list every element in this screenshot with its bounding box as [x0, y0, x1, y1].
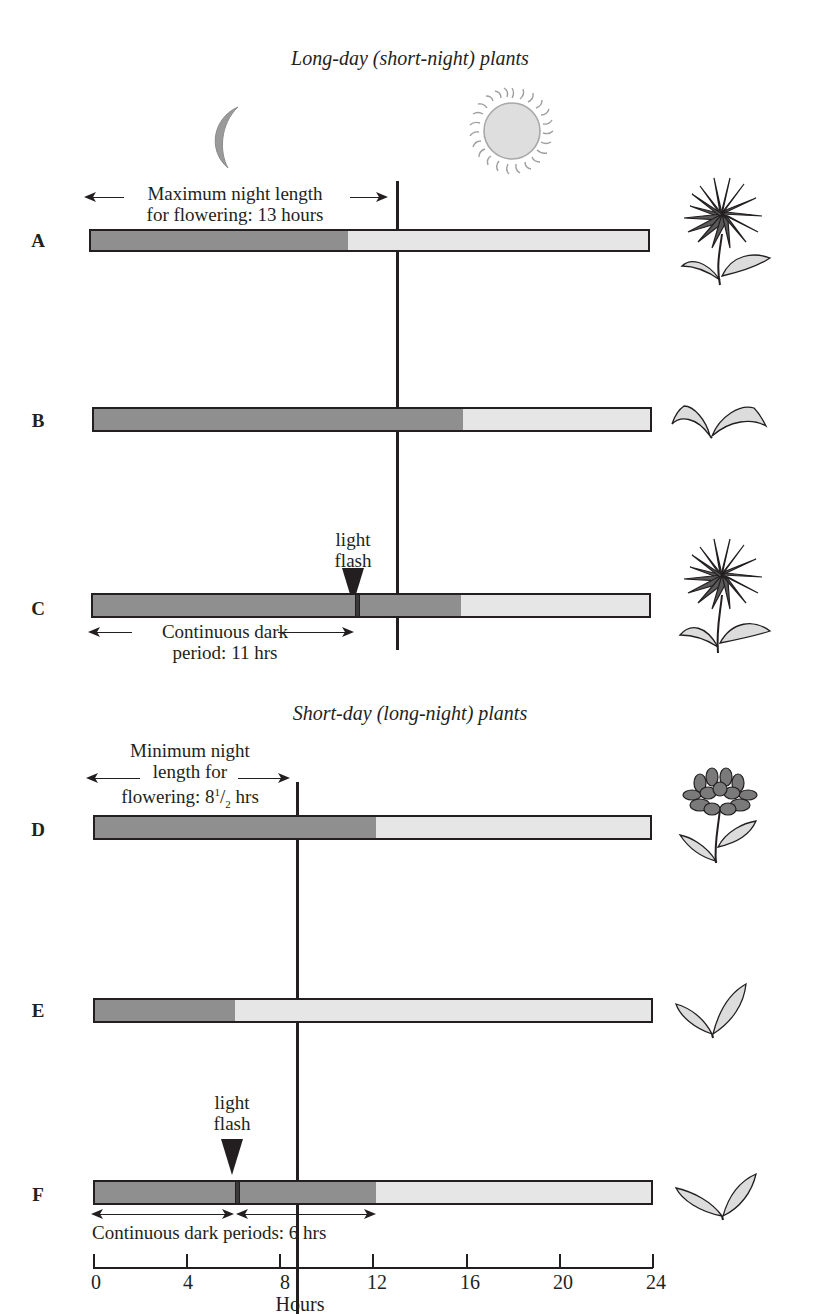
x-tick	[93, 1254, 95, 1268]
arrow-right-head-icon	[342, 627, 354, 637]
light-flash-label-f: light flash	[204, 1092, 260, 1134]
moon-icon	[205, 104, 245, 170]
arrow-right-head-icon	[278, 773, 290, 783]
photoperiod-bar-c	[91, 593, 651, 618]
critical-note-line1: Minimum night	[100, 740, 280, 761]
light-flash-marker-icon	[221, 1139, 243, 1175]
critical-note-line3-unit: hrs	[231, 786, 259, 807]
vegetative-leaves-icon	[670, 398, 780, 440]
flash-label-line1: light	[325, 529, 381, 550]
dark-note-line2: period: 11 hrs	[125, 642, 325, 663]
light-flash-c	[355, 595, 360, 616]
arrow-right-head-icon	[376, 192, 388, 202]
dark-period-e	[95, 1000, 235, 1021]
bottom-panel-title: Short-day (long-night) plants	[230, 702, 590, 725]
arrow-left-head-icon	[236, 1209, 248, 1219]
arrow-left-head-icon	[88, 627, 100, 637]
dark-period-d	[95, 817, 376, 838]
x-axis-label: Hours	[276, 1293, 325, 1314]
flash-label-line2: flash	[204, 1113, 260, 1134]
flash-label-line1: light	[204, 1092, 260, 1113]
x-tick	[186, 1254, 188, 1268]
x-tick-label: 24	[646, 1271, 666, 1294]
dark-period-b	[94, 409, 463, 430]
flowering-plant-icon	[670, 765, 780, 875]
row-label-e: E	[28, 1000, 48, 1022]
arrow-right-head-icon	[364, 1209, 376, 1219]
dark-arrow-2-line	[238, 1214, 372, 1215]
critical-note-line3: flowering: 81/2 hrs	[100, 782, 280, 815]
flowering-plant-icon	[670, 535, 790, 655]
frac-num: 1	[215, 786, 221, 798]
x-tick-label: 4	[183, 1271, 193, 1294]
row-label-f: F	[28, 1184, 48, 1206]
light-flash-f	[235, 1182, 240, 1203]
sun-icon	[462, 84, 562, 184]
dark-arrow-1-line	[95, 1214, 230, 1215]
critical-note-line2: for flowering: 13 hours	[120, 204, 350, 225]
x-tick-label: 8	[280, 1271, 290, 1294]
dark-period-a	[91, 231, 348, 250]
dark-period-note-f: Continuous dark periods: 6 hrs	[92, 1222, 326, 1243]
photoperiod-bar-b	[92, 407, 652, 432]
vegetative-leaves-icon	[670, 1168, 780, 1220]
arrow-right-head-icon	[222, 1209, 234, 1219]
arrow-right-line	[238, 778, 282, 779]
photoperiod-bar-e	[93, 998, 653, 1023]
critical-note-line1: Maximum night length	[120, 183, 350, 204]
photoperiod-bar-d	[93, 815, 652, 840]
x-tick-label: 12	[367, 1271, 387, 1294]
critical-night-note: Maximum night length for flowering: 13 h…	[120, 183, 350, 225]
dark-period-c	[93, 595, 461, 616]
arrow-left-head-icon	[84, 192, 96, 202]
photoperiod-bar-a	[89, 229, 650, 252]
light-flash-label-c: light flash	[325, 529, 381, 571]
row-label-d: D	[28, 819, 48, 841]
arrow-left-head-icon	[91, 1209, 103, 1219]
dark-period-note-c: Continuous dark period: 11 hrs	[125, 621, 325, 663]
x-tick	[372, 1254, 374, 1268]
photoperiod-bar-f	[93, 1180, 653, 1205]
x-tick	[652, 1254, 654, 1268]
top-panel-title: Long-day (short-night) plants	[230, 47, 590, 70]
x-tick	[559, 1254, 561, 1268]
x-tick-label: 20	[553, 1271, 573, 1294]
critical-note-line3-main: flowering: 8	[121, 786, 214, 807]
x-tick-label: 0	[91, 1271, 101, 1294]
row-label-a: A	[28, 230, 48, 252]
x-tick	[279, 1254, 281, 1268]
vegetative-leaves-icon	[670, 980, 780, 1040]
x-tick-label: 16	[460, 1271, 480, 1294]
arrow-left-head-icon	[86, 773, 98, 783]
x-tick	[466, 1254, 468, 1268]
row-label-c: C	[28, 598, 48, 620]
row-label-b: B	[28, 410, 48, 432]
flowering-plant-icon	[670, 170, 790, 290]
dark-note-line1: Continuous dark	[125, 621, 325, 642]
